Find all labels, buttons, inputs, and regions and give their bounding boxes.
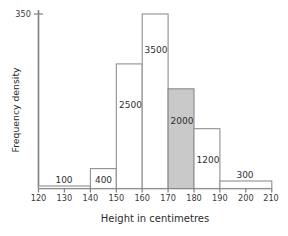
x-tick-label: 140 [83,193,99,203]
y-axis-title: Frequency density [10,67,21,153]
x-tick-label: 190 [212,193,228,203]
x-axis-title: Height in centimetres [101,213,209,224]
x-tick-label: 180 [186,193,202,203]
x-tick-label: 160 [134,193,150,203]
x-tick-label: 200 [238,193,254,203]
bar-value-label: 1200 [197,155,220,165]
bar-value-label: 100 [55,175,72,185]
y-tick-label-350: 350 [15,9,31,19]
x-tick-label: 150 [108,193,124,203]
bar-value-label: 300 [236,170,253,180]
bar-value-label: 2000 [171,116,194,126]
histogram-bar [39,186,91,189]
x-tick-label: 130 [57,193,73,203]
histogram-bar-shaded [168,89,194,189]
x-tick-label: 120 [31,193,47,203]
histogram-chart: 350 100 400 2500 3500 2000 1200 300 [0,0,288,236]
histogram-bar [142,14,168,189]
bar-value-label: 2500 [119,100,142,110]
bar-value-label: 3500 [145,45,168,55]
x-tick-label: 170 [160,193,176,203]
histogram-bar [116,64,142,189]
x-tick-label: 210 [263,193,279,203]
bar-value-label: 400 [95,175,112,185]
histogram-bar [220,181,272,189]
